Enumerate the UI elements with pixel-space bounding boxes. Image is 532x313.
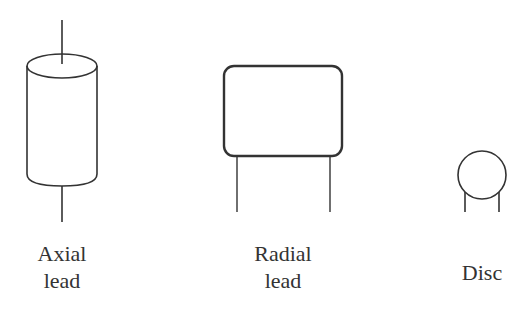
axial-lead-label: Axial lead: [17, 240, 107, 294]
disc-label-line1: Disc: [442, 259, 522, 286]
capacitor-types-diagram: Axial lead Radial lead Disc: [0, 0, 532, 313]
axial-label-line1: Axial: [17, 240, 107, 267]
axial-capacitor-icon: [27, 20, 97, 222]
radial-label-line2: lead: [233, 267, 333, 294]
radial-label-line1: Radial: [233, 240, 333, 267]
disc-label: Disc: [442, 259, 522, 286]
radial-lead-label: Radial lead: [233, 240, 333, 294]
disc-capacitor-icon: [458, 151, 506, 212]
radial-capacitor-icon: [224, 66, 342, 212]
axial-label-line2: lead: [17, 267, 107, 294]
